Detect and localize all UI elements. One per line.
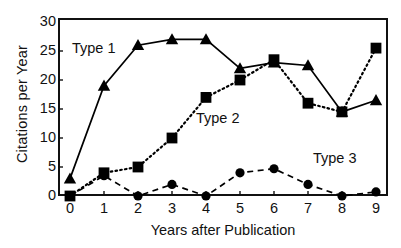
y-tick-label: 5 <box>30 159 56 174</box>
y-tick-label: 30 <box>30 14 56 29</box>
y-tick-label: 0 <box>30 188 56 203</box>
y-axis-tick-labels: 30 25 20 15 10 5 0 <box>26 0 56 248</box>
x-tick-label: 6 <box>264 200 284 216</box>
x-tick-label: 7 <box>298 200 318 216</box>
x-axis-title: Years after Publication <box>58 222 388 238</box>
x-tick-label: 5 <box>230 200 250 216</box>
x-tick-label: 8 <box>332 200 352 216</box>
y-tick-label: 20 <box>30 72 56 87</box>
series-label-type-2: Type 2 <box>196 110 240 126</box>
citations-chart-figure: Citations per Year 30 25 20 15 10 5 0 0 … <box>0 0 401 248</box>
x-tick-label: 9 <box>366 200 386 216</box>
x-tick-label: 3 <box>162 200 182 216</box>
series-label-type-1: Type 1 <box>72 40 116 56</box>
x-tick-label: 4 <box>196 200 216 216</box>
x-tick-label: 2 <box>128 200 148 216</box>
x-tick-label: 1 <box>94 200 114 216</box>
y-tick-label: 10 <box>30 130 56 145</box>
y-tick-label: 25 <box>30 43 56 58</box>
x-axis-tick-labels: 0 1 2 3 4 5 6 7 8 9 <box>58 200 388 220</box>
x-tick-label: 0 <box>60 200 80 216</box>
series-label-type-3: Type 3 <box>313 150 357 166</box>
y-tick-label: 15 <box>30 101 56 116</box>
